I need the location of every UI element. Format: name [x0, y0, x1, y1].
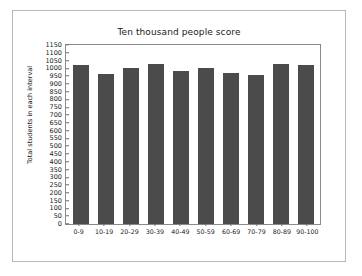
y-tick-label: 500 [50, 143, 66, 150]
y-tick-label: 600 [50, 127, 66, 134]
x-tick-label: 10-19 [95, 229, 113, 235]
x-tick-label: 50-59 [197, 229, 215, 235]
y-tick-label: 100 [50, 205, 66, 212]
y-tick-label: 850 [50, 88, 66, 95]
chart-title: Ten thousand people score [13, 27, 345, 37]
plot-area: 0501001502002503003504004505005506006507… [65, 44, 321, 225]
x-tick-mark [78, 224, 79, 227]
y-tick-label: 650 [50, 120, 66, 127]
y-tick-label: 900 [50, 81, 66, 88]
x-tick-label: 70-79 [247, 229, 265, 235]
y-tick-label: 800 [50, 96, 66, 103]
y-tick-label: 1150 [45, 42, 66, 49]
y-tick-label: 450 [50, 151, 66, 158]
y-axis-label: Total students in each interval [26, 45, 34, 185]
y-tick-label: 950 [50, 73, 66, 80]
y-tick-label: 0 [58, 221, 66, 228]
y-tick-label: 300 [50, 174, 66, 181]
y-tick-label: 1100 [45, 50, 66, 57]
x-tick-mark [154, 224, 155, 227]
x-tick-mark [256, 224, 257, 227]
y-tick-label: 750 [50, 104, 66, 111]
x-tick-label: 0-9 [74, 229, 84, 235]
y-tick-label: 150 [50, 197, 66, 204]
x-tick-mark [104, 224, 105, 227]
y-tick-label: 700 [50, 112, 66, 119]
figure-frame: Ten thousand people score Total students… [12, 10, 346, 262]
x-tick-label: 30-39 [146, 229, 164, 235]
x-tick-label: 90-100 [296, 229, 318, 235]
x-tick-mark [307, 224, 308, 227]
y-tick-label: 250 [50, 182, 66, 189]
x-tick-label: 40-49 [171, 229, 189, 235]
y-tick-label: 50 [54, 213, 66, 220]
x-tick-label: 60-69 [222, 229, 240, 235]
y-tick-label: 350 [50, 166, 66, 173]
y-tick-label: 400 [50, 158, 66, 165]
x-tick-label: 20-29 [120, 229, 138, 235]
y-tick-label: 550 [50, 135, 66, 142]
y-tick-label: 1000 [45, 65, 66, 72]
y-tick-label: 200 [50, 190, 66, 197]
x-tick-mark [180, 224, 181, 227]
x-tick-label: 80-89 [273, 229, 291, 235]
x-tick-mark [231, 224, 232, 227]
x-axis-ticks: 0-910-1920-2930-3940-4950-5960-6970-7980… [66, 45, 320, 224]
x-tick-mark [281, 224, 282, 227]
y-tick-label: 1050 [45, 57, 66, 64]
x-tick-mark [205, 224, 206, 227]
x-tick-mark [129, 224, 130, 227]
